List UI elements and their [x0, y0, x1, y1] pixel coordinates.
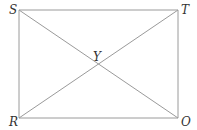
label-y: Y	[93, 50, 102, 64]
label-o: O	[181, 115, 191, 129]
label-r: R	[8, 115, 18, 129]
rectangle-diagram: S T R O Y	[0, 0, 197, 130]
label-s: S	[9, 3, 17, 17]
label-t: T	[181, 3, 190, 17]
